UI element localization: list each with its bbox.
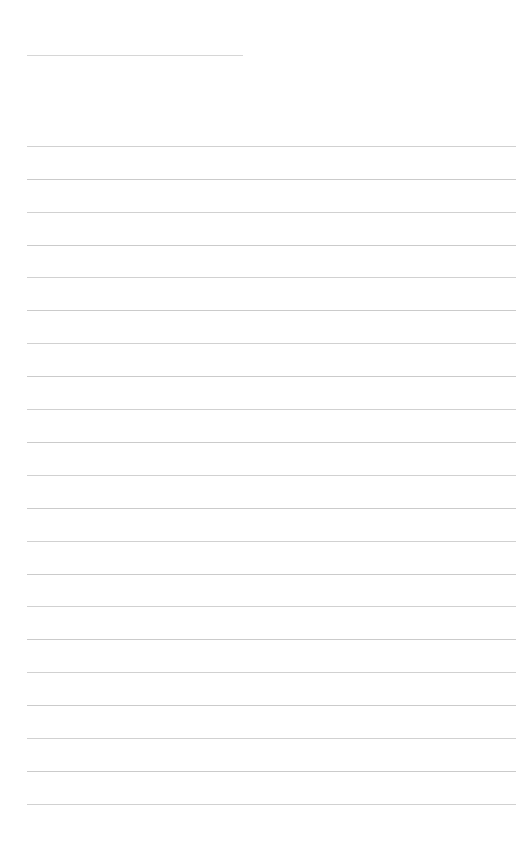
body-rule [27,245,516,246]
body-rule [27,376,516,377]
body-rule [27,672,516,673]
page-body-text [0,0,1,1]
writing-area [0,0,521,853]
body-rule [27,771,516,772]
body-rule [27,606,516,607]
body-rule [27,475,516,476]
body-rule [27,442,516,443]
body-rule [27,804,516,805]
body-rule [27,212,516,213]
body-rule [27,639,516,640]
body-rule [27,343,516,344]
body-rule [27,310,516,311]
body-rule [27,574,516,575]
body-rule [27,146,516,147]
body-rule [27,277,516,278]
lined-page [0,0,521,853]
body-rule [27,179,516,180]
body-rule [27,508,516,509]
body-rule [27,705,516,706]
body-rule [27,541,516,542]
page-title-text [0,0,1,1]
body-rule [27,738,516,739]
title-rule [27,55,243,56]
body-rule [27,409,516,410]
